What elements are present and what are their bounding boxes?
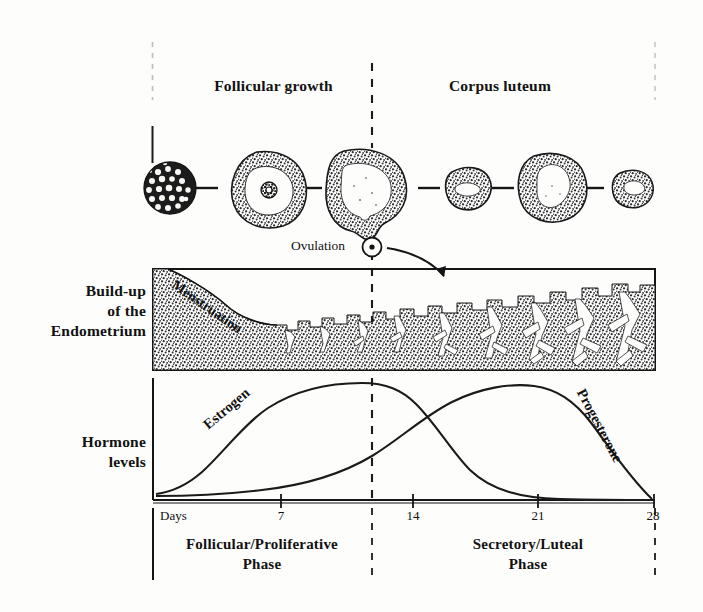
mature-corpus-luteum: [518, 153, 587, 222]
section-title-follicular-growth: Follicular growth: [166, 77, 381, 95]
ovulation-label: Ovulation: [291, 238, 345, 254]
endometrium-label-line1: Build-up: [18, 281, 146, 301]
corpus-albicans: [612, 170, 653, 208]
phase-left-line2: Phase: [156, 555, 368, 575]
days-axis-label: Days: [160, 508, 187, 524]
endometrium-label-line3: Endometrium: [6, 321, 146, 341]
ovulation-symbol: [363, 238, 382, 257]
day-tick-21: 21: [523, 508, 553, 524]
phase-left-line1: Follicular/Proliferative: [156, 535, 368, 555]
menstrual-cycle-diagram: Follicular growth Corpus luteum Ovulatio…: [0, 0, 703, 612]
early-corpus-luteum: [446, 167, 492, 209]
phase-right-line2: Phase: [410, 555, 646, 575]
ovulation-arrow: [387, 248, 446, 277]
day-tick-28: 28: [638, 508, 668, 524]
day-tick-7: 7: [266, 508, 296, 524]
ruptured-follicle: [326, 149, 407, 239]
endometrium-label-line2: of the: [18, 301, 146, 321]
hormone-label-line2: levels: [20, 452, 146, 472]
primordial-follicle: [144, 161, 196, 214]
hormone-label-line1: Hormone: [20, 432, 146, 452]
maturing-follicle: [232, 152, 307, 228]
day-tick-14: 14: [398, 508, 428, 524]
phase-right-line1: Secretory/Luteal: [410, 535, 646, 555]
section-title-corpus-luteum: Corpus luteum: [400, 77, 600, 95]
